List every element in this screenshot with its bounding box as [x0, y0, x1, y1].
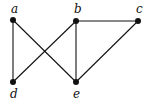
- node-c: [135, 18, 141, 24]
- node-label-a: a: [11, 2, 18, 16]
- node-b: [73, 18, 79, 24]
- graph-canvas: abcde: [0, 0, 150, 103]
- edge-c-e: [76, 21, 138, 82]
- graph-diagram: abcde: [0, 0, 150, 103]
- node-d: [10, 79, 16, 85]
- node-label-d: d: [10, 87, 18, 101]
- node-e: [73, 79, 79, 85]
- node-label-e: e: [73, 87, 80, 101]
- node-label-b: b: [74, 2, 82, 16]
- node-label-c: c: [136, 2, 143, 16]
- edges: [13, 20, 138, 82]
- node-a: [10, 17, 16, 23]
